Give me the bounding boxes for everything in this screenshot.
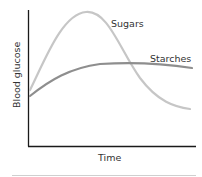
y-axis-title: Blood glucose <box>11 41 22 108</box>
glucose-chart: Sugars Starches Time Blood glucose <box>0 0 202 177</box>
starches-line <box>30 63 192 96</box>
x-axis-title: Time <box>97 152 121 163</box>
divider <box>12 175 196 176</box>
starches-label: Starches <box>150 53 191 64</box>
sugars-label: Sugars <box>111 18 144 29</box>
